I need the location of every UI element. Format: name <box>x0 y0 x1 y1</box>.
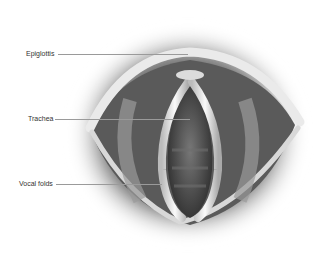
leader-vocal-folds <box>56 184 162 185</box>
label-vocal-folds: Vocal folds <box>19 180 53 187</box>
label-trachea: Trachea <box>28 115 53 122</box>
larynx-diagram: Epiglottis Trachea Vocal folds <box>0 0 323 269</box>
label-epiglottis: Epiglottis <box>26 50 54 57</box>
leader-trachea <box>55 119 190 120</box>
leader-epiglottis <box>58 54 188 55</box>
larynx-illustration <box>0 0 323 269</box>
